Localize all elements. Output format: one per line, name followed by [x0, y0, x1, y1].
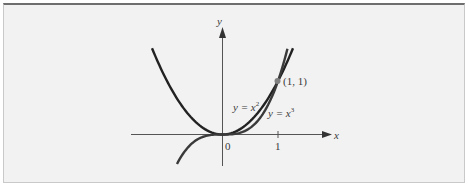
plot: y x 0 1 (1, 1) y = x2 y = x3 — [0, 0, 469, 188]
point-marker — [275, 78, 281, 84]
y-axis-label: y — [216, 15, 222, 27]
origin-label: 0 — [225, 140, 231, 152]
cubic-label: y = x3 — [267, 106, 295, 119]
tick-one-label: 1 — [275, 140, 281, 152]
parabola-label: y = x2 — [232, 100, 260, 113]
point-label: (1, 1) — [283, 75, 307, 88]
x-axis-label: x — [333, 129, 339, 141]
x-axis-arrow-icon — [322, 131, 332, 138]
y-axis-arrow-icon — [219, 27, 226, 38]
